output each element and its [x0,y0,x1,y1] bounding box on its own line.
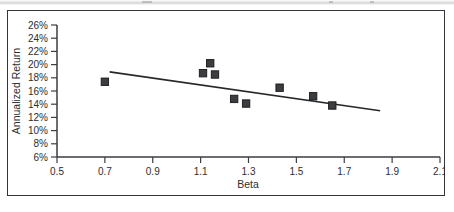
data-point-group [101,60,336,110]
y-tick-label: 24% [28,33,48,44]
scan-smudge [370,1,374,3]
x-tick-label: 1.5 [289,166,303,177]
y-tick-label: 10% [28,125,48,136]
y-tick-group: 6%8%10%12%14%16%18%20%22%24%26% [28,20,57,163]
data-point-marker [242,100,249,107]
x-tick-group: 0.50.70.91.11.31.51.71.92.1 [50,157,445,177]
x-axis-title: Beta [237,178,259,190]
y-tick-label: 22% [28,46,48,57]
data-point-marker [230,95,237,102]
scan-smudge [142,1,152,3]
y-tick-label: 18% [28,72,48,83]
x-tick-label: 2.1 [433,166,445,177]
x-tick-label: 1.1 [194,166,208,177]
scan-smudge [329,1,333,3]
y-tick-label: 6% [34,152,49,163]
data-point-marker [199,69,206,76]
data-point-marker [329,102,336,109]
data-point-marker [211,71,218,78]
x-tick-label: 1.9 [385,166,399,177]
data-point-marker [276,84,283,91]
y-axis-title: Annualized Return [10,48,22,135]
figure-root: 6%8%10%12%14%16%18%20%22%24%26% 0.50.70.… [0,0,454,212]
y-tick-label: 20% [28,59,48,70]
x-tick-label: 0.5 [50,166,64,177]
x-tick-label: 0.9 [146,166,160,177]
y-tick-label: 8% [34,138,49,149]
x-tick-label: 1.3 [242,166,256,177]
y-tick-label: 16% [28,86,48,97]
y-tick-label: 26% [28,20,48,31]
scan-artifact-band [0,0,454,5]
data-point-marker [207,60,214,67]
x-tick-label: 1.7 [337,166,351,177]
y-tick-label: 12% [28,112,48,123]
scatter-plot: 6%8%10%12%14%16%18%20%22%24%26% 0.50.70.… [7,10,445,196]
y-tick-label: 14% [28,99,48,110]
data-point-marker [101,78,108,85]
x-tick-label: 0.7 [98,166,112,177]
data-point-marker [309,93,316,100]
